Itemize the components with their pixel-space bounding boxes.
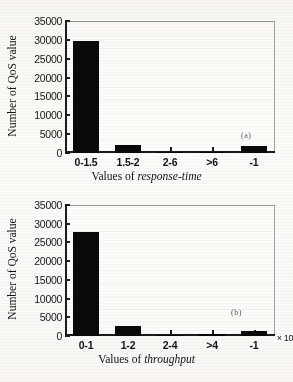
- panel-tag-b: (b): [231, 308, 242, 317]
- x-tick-label: 0-1: [79, 339, 94, 351]
- bar-0-1.5: [73, 41, 98, 153]
- y-tick-label: 0: [56, 331, 62, 342]
- y-tick-label: 10000: [34, 293, 62, 304]
- bar-1-2: [115, 326, 140, 336]
- y-tick-label: 5000: [40, 129, 62, 140]
- bar-0-1: [73, 232, 98, 336]
- y-tick-label: 20000: [34, 72, 62, 83]
- x-axis-title-a: Values of response-time: [0, 170, 293, 182]
- y-tick-label: 25000: [34, 237, 62, 248]
- x-tick-label: 2-6: [163, 156, 178, 168]
- bar->6: [199, 152, 224, 154]
- x-axis-title-b: Values of throughput: [0, 353, 293, 365]
- bar--1: [241, 146, 266, 153]
- bar--1: [241, 331, 266, 336]
- y-tick-label: 5000: [40, 312, 62, 323]
- y-tick-label: 15000: [34, 91, 62, 102]
- figure-panel-b: Number of QoS value 05000100001500020000…: [0, 191, 293, 382]
- x-tick-label: 1.5-2: [117, 156, 140, 168]
- bar-1.5-2: [115, 145, 140, 153]
- y-tick-label: 10000: [34, 110, 62, 121]
- y-axis-title-a: Number of QoS value: [6, 26, 18, 146]
- y-tick-label: 25000: [34, 53, 62, 64]
- y-tick-label: 30000: [34, 35, 62, 46]
- x-axis-title-prefix-b: Values of: [98, 353, 144, 365]
- x-axis-tick-labels-a: 0-1.51.5-22-6>6-1: [65, 156, 275, 170]
- x-tick-label: 1-2: [121, 339, 136, 351]
- y-tick-label: 15000: [34, 275, 62, 286]
- figure-panel-a: Number of QoS value 05000100001500020000…: [0, 0, 293, 191]
- x-tick-label: 2-4: [163, 339, 178, 351]
- panel-tag-a: (a): [241, 131, 251, 140]
- multiplier-base: × 10: [277, 333, 293, 343]
- y-tick-label: 20000: [34, 256, 62, 267]
- x-tick-label: -1: [250, 339, 259, 351]
- x-axis-title-emphasis-a: response-time: [137, 170, 201, 182]
- bar-series-b: [65, 205, 275, 336]
- bar->4: [199, 334, 224, 336]
- x-axis-multiplier-b: × 102: [277, 332, 293, 343]
- y-tick-label: 35000: [34, 16, 62, 27]
- x-axis-tick-labels-b: 0-11-22-4>4-1: [65, 339, 275, 353]
- y-tick-label: 35000: [34, 200, 62, 211]
- y-tick-label: 30000: [34, 218, 62, 229]
- x-axis-title-prefix-a: Values of: [91, 170, 137, 182]
- x-tick-label: >6: [206, 156, 218, 168]
- bar-2-6: [157, 152, 182, 153]
- x-axis-title-emphasis-b: throughput: [144, 353, 195, 365]
- bar-2-4: [157, 335, 182, 336]
- x-tick-label: -1: [250, 156, 259, 168]
- y-tick-label: 0: [56, 148, 62, 159]
- y-axis-title-b: Number of QoS value: [6, 209, 18, 329]
- x-tick-label: 0-1.5: [75, 156, 98, 168]
- plot-area-b: 05000100001500020000250003000035000: [65, 205, 275, 336]
- x-tick-label: >4: [206, 339, 218, 351]
